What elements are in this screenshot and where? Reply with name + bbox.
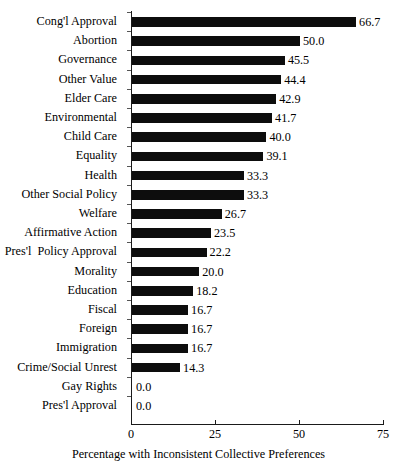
bar-fill [132, 228, 211, 238]
bar-fill [132, 344, 188, 354]
bar: 42.9 [132, 94, 276, 104]
y-axis-tick [127, 166, 131, 167]
bar-value-label: 44.4 [284, 73, 305, 86]
x-axis-tick [131, 420, 132, 425]
bar-row: Pres'l Policy Approval22.2 [0, 242, 397, 261]
bar-value-label: 16.7 [191, 323, 212, 336]
bar-fill [132, 190, 244, 200]
y-axis-tick [127, 204, 131, 205]
y-axis-tick [127, 185, 131, 186]
x-axis-tick [383, 420, 384, 425]
y-axis-tick [127, 70, 131, 71]
bar-row: Foreign16.7 [0, 319, 397, 338]
category-label: Other Value [0, 71, 117, 88]
bar-row: Equality39.1 [0, 146, 397, 165]
bar-row: Abortion50.0 [0, 31, 397, 50]
category-label: Morality [0, 263, 117, 280]
y-axis-tick [127, 223, 131, 224]
bar-value-label: 18.2 [196, 284, 217, 297]
y-axis-tick [127, 31, 131, 32]
bar: 33.3 [132, 171, 244, 181]
bar-value-label: 40.0 [269, 131, 290, 144]
y-axis-tick [127, 396, 131, 397]
x-axis-tick-label: 0 [111, 427, 151, 442]
bar: 66.7 [132, 17, 356, 27]
bar: 18.2 [132, 286, 193, 296]
category-label: Affirmative Action [0, 224, 117, 241]
bar: 33.3 [132, 190, 244, 200]
bar: 50.0 [132, 36, 300, 46]
y-axis-tick [127, 319, 131, 320]
bar-fill [132, 152, 263, 162]
bar: 16.7 [132, 305, 188, 315]
y-axis-tick [127, 300, 131, 301]
bar-value-label: 41.7 [275, 111, 296, 124]
bar: 26.7 [132, 209, 222, 219]
category-label: Health [0, 167, 117, 184]
plot-area: Cong'l Approval66.7Abortion50.0Governanc… [0, 0, 397, 430]
bar: 45.5 [132, 56, 285, 66]
y-axis-tick [127, 358, 131, 359]
y-axis-tick [127, 281, 131, 282]
category-label: Welfare [0, 205, 117, 222]
category-label: Child Care [0, 128, 117, 145]
category-label: Immigration [0, 339, 117, 356]
bar-row: Child Care40.0 [0, 127, 397, 146]
bar-value-label: 20.0 [202, 265, 223, 278]
x-axis-line [131, 424, 383, 425]
bar-value-label: 14.3 [183, 361, 204, 374]
bar-row: Cong'l Approval66.7 [0, 12, 397, 31]
y-axis-tick [127, 242, 131, 243]
category-label: Other Social Policy [0, 186, 117, 203]
category-label: Pres'l Approval [0, 397, 117, 414]
bar-value-label: 26.7 [225, 207, 246, 220]
category-label: Education [0, 282, 117, 299]
bar-fill [132, 36, 300, 46]
bar-fill [132, 209, 222, 219]
bar-row: Health33.3 [0, 166, 397, 185]
y-axis-tick [127, 127, 131, 128]
y-axis-tick [127, 50, 131, 51]
bar-fill [132, 267, 199, 277]
bar-row: Education18.2 [0, 281, 397, 300]
y-axis-tick [127, 338, 131, 339]
bar: 16.7 [132, 344, 188, 354]
bar-fill [132, 17, 356, 27]
bar: 22.2 [132, 248, 207, 258]
bar-value-label: 33.3 [247, 169, 268, 182]
bar: 20.0 [132, 267, 199, 277]
bar: 14.3 [132, 363, 180, 373]
category-label: Abortion [0, 32, 117, 49]
x-axis-tick [215, 420, 216, 425]
x-axis-tick [299, 420, 300, 425]
x-axis-tick-label: 75 [363, 427, 397, 442]
bar: 39.1 [132, 152, 263, 162]
bar: 23.5 [132, 228, 211, 238]
bar-row: Morality20.0 [0, 262, 397, 281]
category-label: Crime/Social Unrest [0, 359, 117, 376]
category-label: Governance [0, 51, 117, 68]
bar: 41.7 [132, 113, 272, 123]
bar-value-label: 16.7 [191, 342, 212, 355]
bar-value-label: 0.0 [136, 399, 151, 412]
category-label: Elder Care [0, 90, 117, 107]
bar-row: Welfare26.7 [0, 204, 397, 223]
bar-value-label: 33.3 [247, 188, 268, 201]
bar-row: Environmental41.7 [0, 108, 397, 127]
bar-value-label: 23.5 [214, 227, 235, 240]
bar-row: Governance45.5 [0, 50, 397, 69]
bar-fill [132, 75, 281, 85]
bar-fill [132, 132, 266, 142]
bar-value-label: 66.7 [359, 15, 380, 28]
bar-value-label: 45.5 [288, 54, 309, 67]
bar-value-label: 16.7 [191, 303, 212, 316]
bar-fill [132, 286, 193, 296]
bar: 16.7 [132, 324, 188, 334]
bar-fill [132, 363, 180, 373]
bar-fill [132, 94, 276, 104]
x-axis-tick-label: 25 [195, 427, 235, 442]
category-label: Environmental [0, 109, 117, 126]
bar-value-label: 42.9 [279, 92, 300, 105]
bar-fill [132, 113, 272, 123]
y-axis-tick [127, 262, 131, 263]
